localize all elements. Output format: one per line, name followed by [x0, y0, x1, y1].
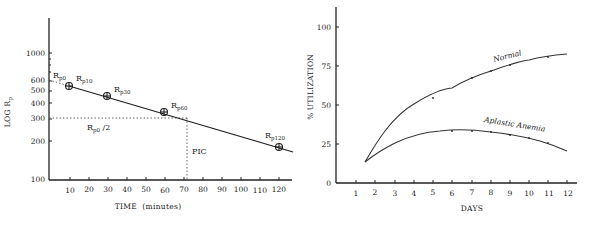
- svg-text:0: 0: [326, 179, 331, 188]
- svg-text:11: 11: [544, 189, 554, 198]
- svg-text:10: 10: [65, 186, 75, 195]
- left-y-tick-labels: 1000 600 500 400 300 200 100: [26, 49, 45, 184]
- aplastic-curve-label: Aplastic Anemia: [483, 115, 546, 134]
- svg-text:1: 1: [354, 189, 359, 198]
- label-rp30: Rp30: [114, 85, 131, 96]
- svg-text:20: 20: [84, 185, 94, 194]
- svg-text:90: 90: [217, 185, 227, 194]
- svg-text:100: 100: [31, 175, 46, 184]
- figure: 1000 600 500 400 300 200 100 10 20 3: [0, 0, 589, 231]
- left-x-tick-labels: 10 20 30 40 50 60 70 80 90 100 110 120: [65, 185, 286, 195]
- svg-text:12: 12: [563, 189, 573, 198]
- data-point-rp60: [161, 109, 168, 116]
- right-y-axis-label: % UTILIZATION: [306, 54, 315, 120]
- svg-text:30: 30: [103, 185, 113, 194]
- svg-text:100: 100: [234, 185, 249, 194]
- svg-text:50: 50: [321, 101, 331, 110]
- left-chart: 1000 600 500 400 300 200 100 10 20 3: [3, 18, 293, 211]
- svg-text:40: 40: [122, 185, 132, 194]
- svg-text:2: 2: [373, 188, 378, 197]
- label-rp10: Rp10: [76, 74, 93, 85]
- right-x-axis-label: DAYS: [461, 204, 483, 213]
- svg-text:4: 4: [412, 189, 417, 198]
- svg-text:9: 9: [508, 189, 513, 198]
- left-x-axis-label: TIME (minutes): [115, 202, 182, 211]
- svg-text:25: 25: [321, 140, 331, 149]
- normal-curve: [365, 54, 567, 162]
- svg-text:5: 5: [431, 188, 436, 197]
- left-y-axis-label: LOG Rp: [3, 97, 14, 128]
- data-point-rp10: [66, 83, 73, 90]
- svg-text:8: 8: [489, 188, 494, 197]
- aplastic-anemia-curve: [365, 130, 567, 162]
- svg-text:75: 75: [321, 62, 331, 71]
- svg-text:3: 3: [393, 189, 398, 198]
- svg-text:120: 120: [272, 185, 287, 194]
- label-pic: PIC: [192, 147, 207, 156]
- right-x-tick-labels: 1 2 3 4 5 6 7 8 9 10 11 12: [354, 188, 573, 198]
- rp-regression-line: [69, 86, 293, 152]
- svg-text:80: 80: [198, 185, 208, 194]
- svg-text:300: 300: [31, 114, 46, 123]
- svg-text:70: 70: [179, 185, 189, 194]
- svg-text:1000: 1000: [26, 49, 45, 58]
- svg-text:600: 600: [31, 76, 46, 85]
- svg-text:500: 500: [31, 86, 46, 95]
- svg-text:200: 200: [31, 137, 46, 146]
- svg-text:LOG Rp: LOG Rp: [3, 97, 14, 128]
- svg-text:60: 60: [160, 186, 170, 195]
- right-chart: 100 75 50 25 0 1 2 3 4 5 6: [306, 7, 577, 213]
- svg-text:400: 400: [31, 99, 46, 108]
- data-point-rp30: [104, 93, 111, 100]
- label-rp0: Rp0: [53, 71, 67, 82]
- svg-text:7: 7: [470, 188, 475, 197]
- label-rp60: Rp60: [171, 101, 188, 112]
- right-y-tick-labels: 100 75 50 25 0: [317, 23, 332, 188]
- svg-text:100: 100: [317, 23, 332, 32]
- data-point-rp120: [276, 144, 283, 151]
- svg-text:10: 10: [524, 189, 534, 198]
- svg-text:110: 110: [253, 186, 268, 195]
- svg-text:UTILIZATION: UTILIZATION: [306, 54, 315, 111]
- svg-text:6: 6: [450, 189, 455, 198]
- svg-text:%: %: [306, 112, 315, 119]
- svg-text:50: 50: [141, 185, 151, 194]
- label-half-rp0: Rp0 /2: [87, 123, 110, 134]
- label-rp120: Rp120: [265, 131, 286, 142]
